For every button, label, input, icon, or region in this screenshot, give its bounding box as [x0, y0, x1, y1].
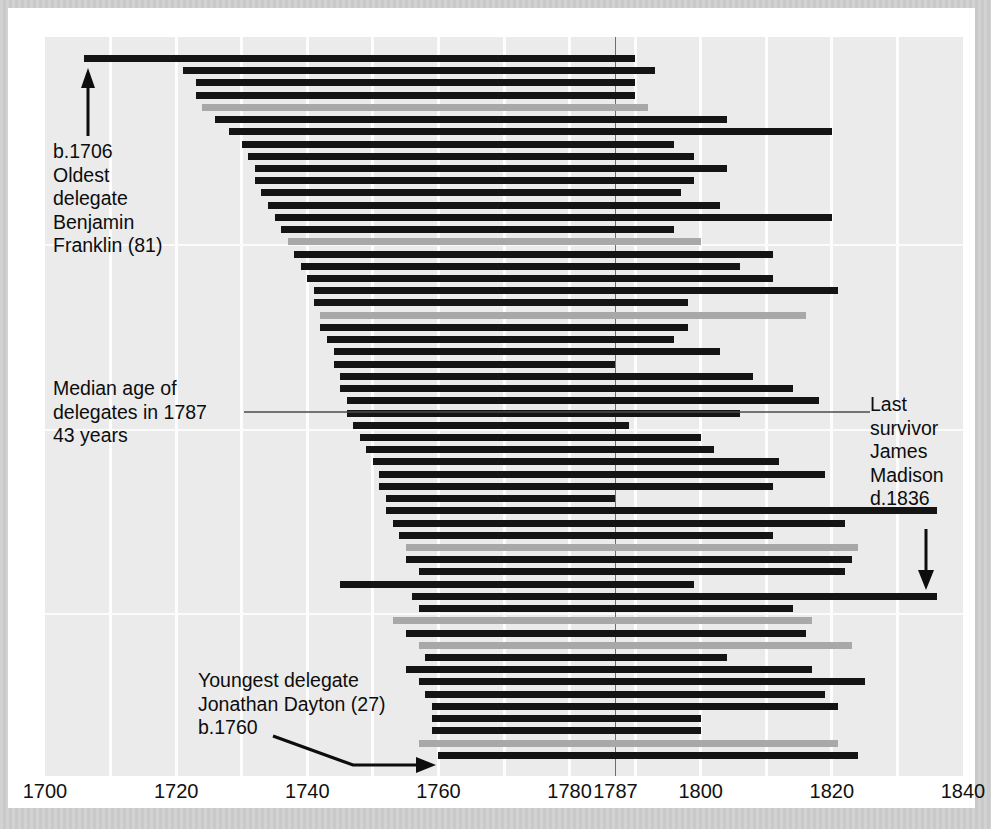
grid-line-horizontal	[45, 613, 963, 615]
lifespan-bar	[419, 642, 852, 649]
lifespan-bar	[340, 373, 753, 380]
lifespan-bar	[334, 361, 616, 368]
lifespan-bar	[196, 79, 635, 86]
lifespan-bar	[202, 104, 648, 111]
lifespan-bar	[320, 312, 805, 319]
grid-line-vertical	[765, 37, 768, 776]
lifespan-bar	[419, 740, 839, 747]
x-axis: 170017201740176017801787180018201840	[45, 780, 963, 810]
grid-line-vertical	[634, 37, 637, 776]
lifespan-bar	[366, 446, 714, 453]
lifespan-bar	[255, 165, 727, 172]
lifespan-bar	[393, 617, 813, 624]
lifespan-bar	[229, 128, 832, 135]
lifespan-bar	[347, 410, 740, 417]
grid-line-vertical	[503, 37, 506, 776]
lifespan-bar	[425, 654, 727, 661]
lifespan-bar	[386, 495, 616, 502]
image-frame: 170017201740176017801787180018201840 b.1…	[0, 0, 991, 829]
x-axis-tick-label: 1820	[810, 780, 855, 803]
lifespan-bar	[314, 299, 688, 306]
grid-line-vertical	[306, 37, 309, 776]
grid-line-vertical	[699, 37, 702, 776]
reference-line-1787	[615, 37, 616, 776]
lifespan-bar	[379, 483, 772, 490]
lifespan-bar	[314, 287, 839, 294]
x-axis-tick-label: 1760	[416, 780, 461, 803]
lifespan-bar	[379, 471, 825, 478]
lifespan-bar	[412, 593, 937, 600]
lifespan-bar	[406, 544, 858, 551]
lifespan-bar	[419, 605, 793, 612]
lifespan-bar	[393, 520, 845, 527]
x-axis-tick-label: 1740	[285, 780, 330, 803]
lifespan-bar	[360, 434, 701, 441]
lifespan-bar	[432, 715, 701, 722]
annotation-dayton: Youngest delegate Jonathan Dayton (27) b…	[198, 669, 386, 740]
lifespan-bar	[425, 691, 825, 698]
x-axis-tick-label: 1700	[23, 780, 68, 803]
lifespan-bar	[373, 458, 780, 465]
lifespan-bar	[438, 752, 858, 759]
grid-line-vertical	[568, 37, 571, 776]
lifespan-bar	[399, 532, 773, 539]
chart-sheet: 170017201740176017801787180018201840 b.1…	[8, 8, 975, 808]
x-axis-tick-label: 1800	[678, 780, 723, 803]
lifespan-bar	[307, 275, 773, 282]
lifespan-bar	[196, 92, 635, 99]
lifespan-bar	[334, 348, 721, 355]
lifespan-bar	[353, 422, 628, 429]
grid-line-vertical	[437, 37, 440, 776]
lifespan-bar	[432, 727, 701, 734]
lifespan-bar	[281, 226, 674, 233]
annotation-madison: Last survivor James Madison d.1836	[870, 393, 944, 511]
grid-line-vertical	[830, 37, 833, 776]
lifespan-bar	[320, 324, 687, 331]
lifespan-bar	[288, 238, 701, 245]
grid-line-vertical	[371, 37, 374, 776]
lifespan-bar	[347, 397, 819, 404]
x-axis-tick-label: 1787	[593, 780, 638, 803]
lifespan-bar	[406, 556, 852, 563]
lifespan-bar	[406, 666, 813, 673]
annotation-franklin: b.1706 Oldest delegate Benjamin Franklin…	[53, 140, 162, 258]
lifespan-bar	[340, 385, 792, 392]
lifespan-bar	[340, 581, 694, 588]
x-axis-tick-label: 1780	[547, 780, 592, 803]
annotation-median-age: Median age of delegates in 1787 43 years	[53, 377, 207, 448]
lifespan-bar	[248, 153, 694, 160]
lifespan-bar	[386, 507, 937, 514]
lifespan-bar	[419, 568, 845, 575]
x-axis-tick-label: 1840	[941, 780, 986, 803]
lifespan-bar	[84, 55, 635, 62]
lifespan-bar	[215, 116, 726, 123]
lifespan-bar	[261, 189, 681, 196]
x-axis-tick-label: 1720	[154, 780, 199, 803]
lifespan-bar	[275, 214, 832, 221]
lifespan-bar	[327, 336, 675, 343]
lifespan-bar	[242, 141, 675, 148]
grid-line-vertical	[240, 37, 243, 776]
lifespan-bar	[255, 177, 694, 184]
lifespan-bar	[268, 202, 720, 209]
lifespan-bar	[406, 630, 806, 637]
lifespan-bar	[183, 67, 655, 74]
lifespan-bar	[301, 263, 740, 270]
lifespan-bar	[432, 703, 839, 710]
lifespan-bar	[419, 678, 865, 685]
lifespan-bar	[294, 251, 773, 258]
